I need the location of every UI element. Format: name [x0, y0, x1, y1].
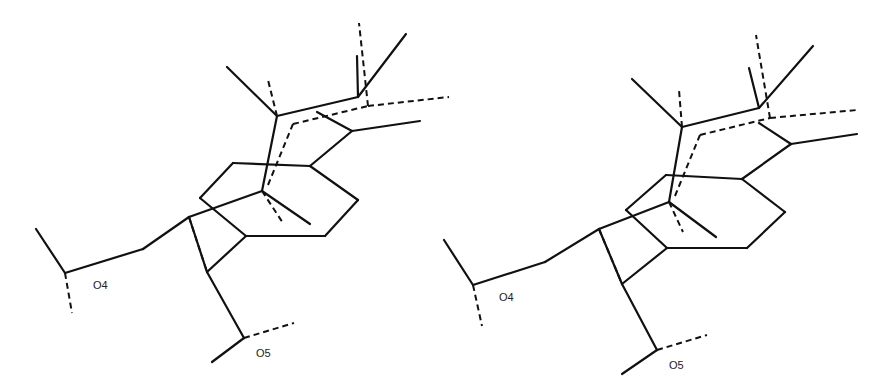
solid-bond — [310, 166, 358, 200]
dashed-bond — [770, 110, 857, 118]
solid-bond — [749, 68, 759, 108]
solid-bond — [200, 163, 233, 198]
solid-bond — [666, 175, 742, 179]
dashed-bond — [657, 335, 707, 350]
solid-bond — [742, 179, 785, 212]
solid-bond — [207, 272, 244, 338]
dashed-bond — [368, 97, 449, 106]
solid-bond — [759, 123, 791, 144]
solid-bond — [357, 56, 358, 97]
solid-bond — [36, 229, 65, 273]
solid-bond — [473, 262, 545, 285]
stereo-molecule-figure: O4 O5 O4 O5 — [0, 0, 889, 390]
solid-bond — [669, 127, 682, 202]
label-o5-right: O5 — [669, 359, 684, 371]
left-view — [36, 23, 449, 362]
dashed-bond — [65, 273, 72, 313]
dashed-bond — [679, 90, 682, 127]
solid-bond — [545, 229, 599, 262]
solid-bond — [742, 144, 791, 179]
molecule-drawing — [0, 0, 889, 390]
solid-bond — [747, 212, 785, 248]
dashed-bond — [473, 285, 482, 326]
solid-bond — [632, 79, 682, 127]
solid-bond — [444, 240, 473, 285]
solid-bond — [143, 217, 189, 249]
solid-bond — [207, 236, 246, 272]
right-view — [444, 35, 857, 374]
solid-bond — [682, 108, 759, 127]
solid-bond — [189, 191, 262, 217]
solid-bond — [262, 191, 310, 224]
solid-bond — [669, 202, 716, 237]
solid-bond — [189, 217, 207, 272]
solid-bond — [622, 248, 667, 284]
label-o4-left: O4 — [93, 279, 108, 291]
solid-bond — [310, 131, 352, 166]
solid-bond — [325, 200, 358, 236]
dashed-bond — [244, 323, 294, 338]
dashed-bond — [262, 191, 283, 223]
dashed-bond — [268, 124, 293, 185]
solid-bond — [200, 198, 246, 236]
solid-bond — [233, 163, 310, 166]
solid-bond — [622, 350, 657, 374]
solid-bond — [599, 202, 669, 229]
solid-bond — [791, 134, 857, 144]
solid-bond — [212, 338, 244, 362]
label-o4-right: O4 — [499, 291, 514, 303]
solid-bond — [622, 284, 657, 350]
solid-bond — [352, 121, 420, 131]
solid-bond — [227, 67, 277, 116]
solid-bond — [358, 34, 406, 97]
label-o5-left: O5 — [256, 347, 271, 359]
solid-bond — [65, 249, 143, 273]
solid-bond — [759, 46, 813, 108]
